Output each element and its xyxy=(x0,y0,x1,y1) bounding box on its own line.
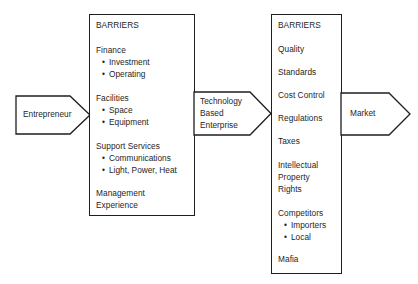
internal-group-finance-label: Finance xyxy=(96,45,126,55)
external-item-taxes: Taxes xyxy=(278,136,300,146)
technology-arrow-label-line2: Based xyxy=(200,108,224,119)
bullet-icon: • xyxy=(102,105,109,115)
internal-group-facilities-item-equipment-label: Equipment xyxy=(109,117,149,127)
internal-group-management-label-line2: Experience xyxy=(96,200,138,210)
internal-group-finance-item-investment-label: Investment xyxy=(109,57,150,67)
internal-group-support-services-label: Support Services xyxy=(96,141,160,151)
external-group-competitors-item-importers-label: Importers xyxy=(291,220,326,230)
external-group-competitors-label: Competitors xyxy=(278,208,323,218)
internal-group-finance-item-investment: •Investment xyxy=(102,57,150,67)
bullet-icon: • xyxy=(102,117,109,127)
internal-group-support-item-communications-label: Communications xyxy=(109,153,171,163)
technology-arrow-label-line3: Enterprise xyxy=(200,120,238,131)
external-group-competitors-item-importers: •Importers xyxy=(284,220,326,230)
bullet-icon: • xyxy=(284,232,291,242)
external-item-cost-control: Cost Control xyxy=(278,90,325,100)
bullet-icon: • xyxy=(102,165,109,175)
external-group-competitors-item-local: •Local xyxy=(284,232,311,242)
internal-group-facilities-label: Facilities xyxy=(96,93,129,103)
internal-barriers-heading: BARRIERS xyxy=(96,20,139,30)
entrepreneur-arrow-label: Entrepreneur xyxy=(23,109,71,120)
internal-group-support-item-light-power-heat-label: Light, Power, Heat xyxy=(109,165,177,175)
external-barriers-heading: BARRIERS xyxy=(278,20,321,30)
external-item-intellectual-property-rights-line2: Property xyxy=(278,172,310,182)
internal-group-facilities-item-space: •Space xyxy=(102,105,133,115)
bullet-icon: • xyxy=(102,57,109,67)
external-item-quality: Quality xyxy=(278,44,304,54)
flow-diagram-canvas: Entrepreneur BARRIERS Finance •Investmen… xyxy=(0,0,418,284)
internal-group-facilities-item-space-label: Space xyxy=(109,105,133,115)
technology-arrow-label-line1: Technology xyxy=(200,96,242,107)
internal-group-support-item-light-power-heat: •Light, Power, Heat xyxy=(102,165,177,175)
market-arrow-label: Market xyxy=(350,108,375,119)
external-item-regulations: Regulations xyxy=(278,113,322,123)
external-item-standards: Standards xyxy=(278,67,316,77)
bullet-icon: • xyxy=(102,153,109,163)
internal-group-finance-item-operating: •Operating xyxy=(102,69,145,79)
bullet-icon: • xyxy=(284,220,291,230)
external-item-intellectual-property-rights-line3: Rights xyxy=(278,184,302,194)
internal-group-support-item-communications: •Communications xyxy=(102,153,171,163)
external-group-competitors-item-local-label: Local xyxy=(291,232,311,242)
internal-group-finance-item-operating-label: Operating xyxy=(109,69,145,79)
external-item-mafia: Mafia xyxy=(278,254,299,264)
external-item-intellectual-property-rights-line1: Intellectual xyxy=(278,160,318,170)
internal-group-management-label: Management xyxy=(96,188,145,198)
internal-group-facilities-item-equipment: •Equipment xyxy=(102,117,149,127)
bullet-icon: • xyxy=(102,69,109,79)
